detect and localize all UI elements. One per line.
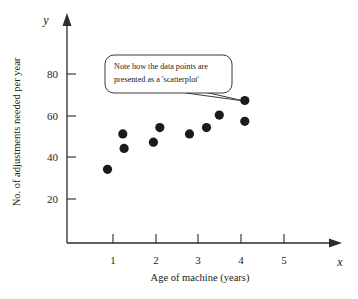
x-tick-label-1: 1 — [110, 254, 116, 266]
data-point — [118, 129, 127, 138]
chart-canvas: 80 60 40 20 1 2 3 4 5 y x Age of machine… — [0, 0, 358, 299]
x-axis-title: Age of machine (years) — [151, 272, 250, 284]
x-tick-label-4: 4 — [238, 254, 244, 266]
data-point — [120, 144, 129, 153]
data-point — [240, 96, 249, 105]
scatterplot-figure: 80 60 40 20 1 2 3 4 5 y x Age of machine… — [0, 0, 358, 299]
x-axis-letter: x — [336, 255, 343, 269]
data-point — [149, 138, 158, 147]
callout-bubble — [105, 55, 232, 93]
data-point — [215, 111, 224, 120]
y-tick-label-80: 80 — [47, 68, 59, 80]
data-point-group — [103, 96, 250, 174]
callout-line-2: presented as a 'scatterplot' — [114, 75, 200, 84]
data-point — [155, 123, 164, 132]
x-tick-label-3: 3 — [195, 254, 201, 266]
y-tick-label-40: 40 — [47, 151, 59, 163]
data-point — [240, 117, 249, 126]
data-point — [185, 129, 194, 138]
data-point — [202, 123, 211, 132]
x-axis-arrowhead — [329, 239, 342, 248]
data-point — [103, 165, 112, 174]
y-axis-title: No. of adjustments needed per year — [11, 57, 22, 206]
y-tick-label-60: 60 — [47, 110, 59, 122]
callout-line-1: Note how the data points are — [114, 62, 208, 71]
y-axis-arrowhead — [63, 13, 72, 26]
x-tick-label-2: 2 — [153, 254, 159, 266]
y-axis-letter: y — [42, 13, 49, 27]
y-tick-label-20: 20 — [47, 193, 59, 205]
x-tick-label-5: 5 — [281, 254, 287, 266]
